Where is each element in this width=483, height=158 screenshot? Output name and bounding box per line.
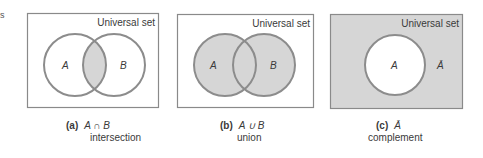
panel-complement: Universal set A Ā [331,15,463,109]
complement-label: Ā [436,60,444,71]
set-a-label: A [61,60,69,71]
caption-expression: Ā [394,120,401,131]
caption-tag: (a) [66,120,78,131]
set-a-label: A [390,60,398,71]
set-a-label: A [209,60,217,71]
panel-intersection: Universal set A B [28,14,159,108]
caption-expression: A ∩ B [84,120,110,131]
set-b-label: B [270,60,277,71]
caption-tag: (c) [376,120,388,131]
caption-word: union [220,132,264,144]
universal-set-label: Universal set [97,17,155,28]
caption-tag: (b) [220,120,233,131]
universal-set-label: Universal set [401,18,459,29]
caption-complement: (c)Ā complement [376,120,422,144]
caption-expression: A ∪ B [239,120,265,131]
panel-union: Universal set A B [178,15,314,108]
caption-intersection: (a)A ∩ B intersection [66,120,141,144]
caption-word: complement [368,132,422,144]
universal-set-label: Universal set [252,18,310,29]
set-b-label: B [120,60,127,71]
caption-union: (b)A ∪ B union [220,120,264,144]
caption-word: intersection [66,132,141,144]
